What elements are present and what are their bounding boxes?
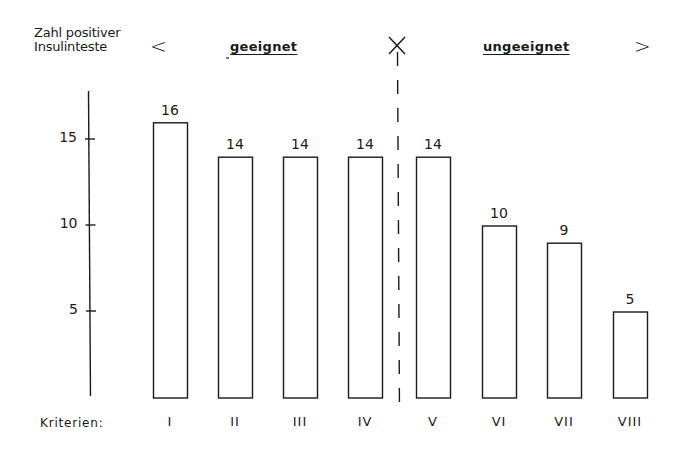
value-label: 10 (479, 205, 519, 221)
value-label: 14 (345, 136, 385, 152)
y-tick-label: 10 (48, 215, 78, 231)
dashed-divider-line (398, 52, 400, 412)
value-label: 14 (215, 136, 255, 152)
category-label: III (280, 414, 320, 429)
category-label: VII (544, 414, 584, 429)
value-label: 16 (150, 102, 190, 118)
category-label: I (150, 414, 190, 429)
y-axis (85, 91, 96, 396)
value-label: 14 (413, 136, 453, 152)
bar-IV (349, 157, 383, 398)
bar-VIII (614, 312, 648, 398)
category-label: VI (479, 414, 519, 429)
bars-group (154, 123, 648, 398)
y-tick-label: 15 (47, 129, 77, 145)
bar-VI (483, 226, 517, 398)
value-label: 5 (610, 291, 650, 307)
bar-V (417, 157, 451, 398)
category-label: II (215, 414, 255, 429)
category-label: VIII (610, 414, 650, 429)
value-label: 14 (280, 136, 320, 152)
bar-I (154, 123, 188, 398)
y-axis-line (89, 91, 91, 396)
y-tick-label: 5 (48, 301, 78, 317)
category-label: V (413, 414, 453, 429)
bar-VII (548, 243, 582, 398)
bar-II (219, 157, 253, 398)
category-label: IV (345, 414, 385, 429)
bar-III (284, 157, 318, 398)
x-axis-title: Kriterien: (40, 416, 104, 430)
value-label: 9 (544, 222, 584, 238)
